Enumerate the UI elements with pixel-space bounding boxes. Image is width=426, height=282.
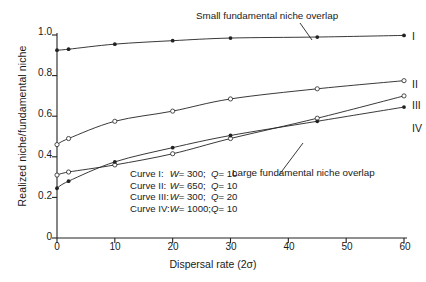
- data-point-III: [55, 173, 59, 177]
- legend-value-W: = 300;: [179, 191, 211, 203]
- data-point-II: [402, 79, 406, 83]
- legend-param-Q: Q: [211, 180, 218, 192]
- data-point-IV: [402, 105, 406, 109]
- legend-curve-name: Curve IV:: [130, 203, 170, 215]
- data-point-II: [113, 119, 117, 123]
- data-point-IV: [315, 119, 319, 123]
- legend-value-Q: = 10: [218, 168, 237, 180]
- data-point-II: [315, 87, 319, 91]
- y-axis-label: Realized niche/fundamental niche: [16, 16, 28, 236]
- y-tick-label-0.6: 0.6: [26, 108, 52, 119]
- data-point-IV: [229, 134, 233, 138]
- data-point-I: [55, 48, 59, 52]
- data-point-III: [402, 94, 406, 98]
- x-tick-label-10: 10: [105, 241, 125, 252]
- x-axis-label: Dispersal rate (2σ): [0, 258, 426, 270]
- y-axis-ticks: [52, 35, 57, 238]
- y-tick-label-1.0: 1.0: [26, 26, 52, 37]
- legend-value-Q: = 10: [218, 203, 237, 215]
- x-tick-label-30: 30: [221, 241, 241, 252]
- legend-row: Curve I:W= 300;Q= 10: [130, 168, 237, 180]
- legend-value-W: = 300;: [179, 168, 211, 180]
- legend-row: Curve II:W= 650;Q= 10: [130, 180, 237, 192]
- data-point-II: [228, 97, 232, 101]
- legend-curve-name: Curve III:: [130, 191, 170, 203]
- legend-block: Curve I:W= 300;Q= 10Curve II:W= 650;Q= 1…: [130, 168, 237, 214]
- curve-label-I: I: [412, 30, 415, 42]
- legend-table: Curve I:W= 300;Q= 10Curve II:W= 650;Q= 1…: [130, 168, 237, 214]
- legend-value-Q: = 20: [218, 191, 237, 203]
- x-tick-label-60: 60: [395, 241, 415, 252]
- data-point-II: [55, 143, 59, 147]
- legend-curve-name: Curve I:: [130, 168, 170, 180]
- legend-curve-name: Curve II:: [130, 180, 170, 192]
- small-overlap-annotation: Small fundamental niche overlap: [196, 10, 338, 21]
- legend-param-W: W: [170, 191, 179, 203]
- legend-param-W: W: [170, 168, 179, 180]
- y-tick-label-0.4: 0.4: [26, 149, 52, 160]
- data-point-IV: [171, 146, 175, 150]
- curve-label-II: II: [412, 78, 418, 90]
- data-point-I: [113, 42, 117, 46]
- data-point-IV: [67, 179, 71, 183]
- legend-value-W: = 1000;: [179, 203, 211, 215]
- data-point-I: [402, 34, 406, 38]
- data-point-II: [66, 136, 70, 140]
- y-tick-label-0.2: 0.2: [26, 190, 52, 201]
- curve-label-III: III: [412, 99, 421, 111]
- large-overlap-annotation: Large fundamental niche overlap: [232, 167, 375, 178]
- curve-label-IV: IV: [412, 122, 422, 134]
- legend-param-Q: Q: [211, 203, 218, 215]
- data-point-I: [315, 35, 319, 39]
- legend-param-Q: Q: [211, 168, 218, 180]
- legend-value-Q: = 10: [218, 180, 237, 192]
- x-tick-label-20: 20: [163, 241, 183, 252]
- data-point-I: [171, 39, 175, 43]
- x-tick-label-50: 50: [337, 241, 357, 252]
- legend-row: Curve IV:W= 1000;Q= 10: [130, 203, 237, 215]
- legend-param-W: W: [170, 203, 179, 215]
- legend-row: Curve III:W= 300;Q= 20: [130, 191, 237, 203]
- data-point-I: [229, 36, 233, 40]
- legend-value-W: = 650;: [179, 180, 211, 192]
- data-point-III: [66, 170, 70, 174]
- x-tick-label-0: 0: [47, 241, 67, 252]
- legend-param-Q: Q: [211, 191, 218, 203]
- series-I: [55, 34, 406, 53]
- data-point-III: [171, 152, 175, 156]
- y-tick-label-0.8: 0.8: [26, 67, 52, 78]
- chart-plot-area: [0, 0, 426, 282]
- x-tick-label-40: 40: [279, 241, 299, 252]
- data-point-I: [67, 47, 71, 51]
- legend-param-W: W: [170, 180, 179, 192]
- data-point-II: [171, 109, 175, 113]
- figure-container: Realized niche/fundamental niche Dispers…: [0, 0, 426, 282]
- data-point-IV: [113, 160, 117, 164]
- data-point-IV: [55, 186, 59, 190]
